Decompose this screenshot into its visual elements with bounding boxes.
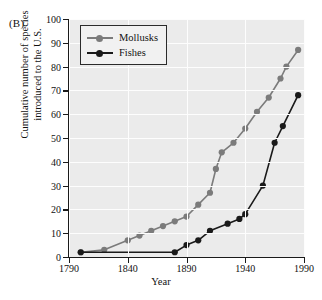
y-axis-tick-label: 30 xyxy=(21,180,61,191)
y-axis-tick-label: 80 xyxy=(21,61,61,72)
y-axis-line xyxy=(68,19,69,258)
data-point-marker xyxy=(230,140,236,146)
y-axis-tick xyxy=(63,90,68,91)
data-point-marker xyxy=(213,166,219,172)
data-point-marker xyxy=(172,249,178,255)
data-point-marker xyxy=(277,75,283,81)
data-point-marker xyxy=(195,202,201,208)
legend-label-mollusks: Mollusks xyxy=(119,32,158,43)
y-axis-tick-label: 20 xyxy=(21,204,61,215)
data-point-marker xyxy=(266,94,272,100)
data-point-marker xyxy=(195,237,201,243)
data-point-marker xyxy=(207,190,213,196)
data-point-marker xyxy=(280,123,286,129)
series-line xyxy=(81,50,298,252)
y-axis-tick-label: 50 xyxy=(21,133,61,144)
y-axis-tick xyxy=(63,186,68,187)
y-axis-tick xyxy=(63,138,68,139)
chart-legend: Mollusks Fishes xyxy=(80,25,167,65)
y-axis-tick xyxy=(63,43,68,44)
legend-marker-mollusks-icon xyxy=(87,32,113,44)
x-axis-title: Year xyxy=(0,276,322,287)
legend-item-mollusks: Mollusks xyxy=(87,30,158,45)
y-axis-tick xyxy=(63,209,68,210)
data-point-marker xyxy=(78,249,84,255)
data-point-marker xyxy=(236,216,242,222)
y-axis-tick xyxy=(63,114,68,115)
legend-item-fishes: Fishes xyxy=(87,45,158,60)
y-axis-tick xyxy=(63,67,68,68)
gridline-vertical xyxy=(304,19,305,257)
x-axis-tick-label: 1790 xyxy=(46,263,92,274)
y-axis-tick xyxy=(63,233,68,234)
y-axis-tick-label: 70 xyxy=(21,85,61,96)
x-axis-tick-label: 1840 xyxy=(105,263,151,274)
y-axis-tick-label: 100 xyxy=(21,14,61,25)
series-fishes xyxy=(78,92,302,255)
y-axis-tick-label: 40 xyxy=(21,156,61,167)
series-mollusks xyxy=(78,47,302,256)
series-line xyxy=(81,95,298,252)
x-axis-tick-label: 1940 xyxy=(222,263,268,274)
y-axis-tick xyxy=(63,162,68,163)
figure-panel-b: (B) Cumulative number of species introdu… xyxy=(0,0,322,300)
gridline-vertical xyxy=(245,19,246,257)
y-axis-tick xyxy=(63,257,68,258)
y-axis-tick-label: 0 xyxy=(21,252,61,263)
data-point-marker xyxy=(225,221,231,227)
y-axis-tick-label: 90 xyxy=(21,37,61,48)
y-axis-tick-label: 60 xyxy=(21,109,61,120)
x-axis-tick-label: 1990 xyxy=(281,263,322,274)
data-point-marker xyxy=(295,47,301,53)
data-point-marker xyxy=(272,140,278,146)
y-axis-tick xyxy=(63,19,68,20)
x-axis-tick-label: 1890 xyxy=(164,263,210,274)
legend-marker-fishes-icon xyxy=(87,47,113,59)
data-point-marker xyxy=(160,223,166,229)
data-point-marker xyxy=(295,92,301,98)
gridline-vertical xyxy=(187,19,188,257)
legend-label-fishes: Fishes xyxy=(119,47,146,58)
y-axis-tick-label: 10 xyxy=(21,228,61,239)
data-point-marker xyxy=(172,218,178,224)
data-point-marker xyxy=(219,149,225,155)
